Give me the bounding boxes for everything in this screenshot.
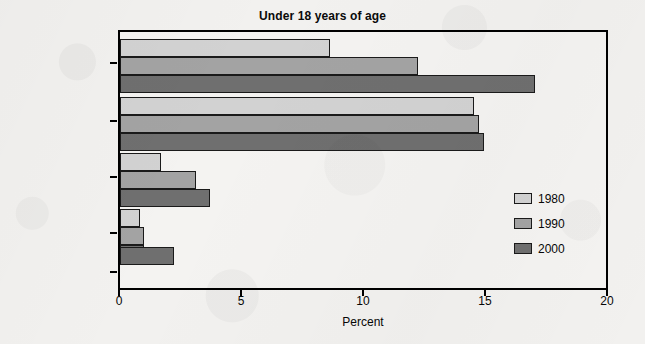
legend-swatch-2000 <box>514 243 532 254</box>
y-tick-two-or-more-races <box>110 271 117 273</box>
x-tick-label-15: 15 <box>465 294 505 308</box>
chart-legend: 198019902000 <box>514 186 565 261</box>
legend-swatch-1990 <box>514 218 532 229</box>
chart-figure: Under 18 years of age Hispanic Black1 As… <box>0 0 645 344</box>
legend-label-1990: 1990 <box>538 217 565 231</box>
bar-2000-black <box>120 133 484 151</box>
legend-label-1980: 1980 <box>538 192 565 206</box>
bar-1980-asian-or-pacific-islander <box>120 153 161 171</box>
legend-swatch-1980 <box>514 193 532 204</box>
legend-item-1990[interactable]: 1990 <box>514 211 565 236</box>
x-axis-title: Percent <box>118 315 608 329</box>
bar-1990-black <box>120 115 479 133</box>
bar-1990-hispanic <box>120 57 418 75</box>
bar-1990-american-indian-or-alaska-native <box>120 227 144 245</box>
chart-title: Under 18 years of age <box>0 9 645 23</box>
bar-2000-2-or-more-races <box>120 247 174 265</box>
x-tick-label-10: 10 <box>343 294 383 308</box>
legend-label-2000: 2000 <box>538 242 565 256</box>
x-tick-label-0: 0 <box>99 294 139 308</box>
bar-1980-hispanic <box>120 39 330 57</box>
y-tick-asian <box>110 176 117 178</box>
y-tick-american-indian <box>110 232 117 234</box>
y-tick-black <box>110 120 117 122</box>
x-tick-label-20: 20 <box>587 294 627 308</box>
y-tick-hispanic <box>110 62 117 64</box>
bar-2000-asian-or-pacific-islander <box>120 189 210 207</box>
legend-item-2000[interactable]: 2000 <box>514 236 565 261</box>
bar-1980-american-indian-or-alaska-native <box>120 209 140 227</box>
legend-item-1980[interactable]: 1980 <box>514 186 565 211</box>
bar-1990-asian-or-pacific-islander <box>120 171 196 189</box>
bar-1980-black <box>120 97 474 115</box>
bar-2000-hispanic <box>120 75 535 93</box>
x-tick-label-5: 5 <box>221 294 261 308</box>
